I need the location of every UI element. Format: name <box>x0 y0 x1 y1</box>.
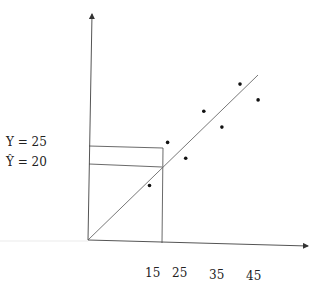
regression-diagram: Y = 25 Ŷ = 20 15 25 35 45 <box>0 0 324 292</box>
x-tick-label: 15 <box>145 266 160 280</box>
data-point <box>256 98 260 102</box>
data-point <box>202 110 206 114</box>
regression-line <box>88 75 258 240</box>
x-guide <box>162 148 163 243</box>
x-axis <box>88 240 308 246</box>
data-point <box>220 125 224 129</box>
data-point <box>184 157 188 161</box>
x-tick-label: 35 <box>209 268 224 282</box>
data-point <box>238 82 242 86</box>
data-points <box>148 82 260 187</box>
predicted-y-guide <box>89 164 162 167</box>
x-tick-label: 45 <box>246 269 261 283</box>
y-axis <box>88 14 92 240</box>
data-point <box>148 184 152 188</box>
data-point <box>166 141 170 145</box>
x-tick-label: 25 <box>172 266 187 280</box>
observed-y-guide <box>89 146 163 148</box>
predicted-y-label: Ŷ = 20 <box>5 154 47 169</box>
observed-y-label: Y = 25 <box>5 135 47 149</box>
